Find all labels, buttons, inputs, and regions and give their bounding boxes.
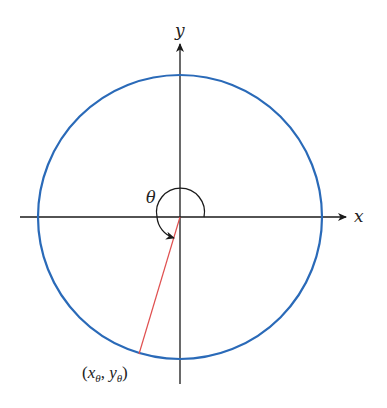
unit-circle-diagram: y x θ (xθ, yθ) [0, 0, 387, 408]
angle-label: θ [146, 188, 156, 207]
point-label: (xθ, yθ) [82, 363, 128, 384]
y-axis-label: y [174, 20, 185, 40]
x-axis-label: x [354, 206, 364, 226]
